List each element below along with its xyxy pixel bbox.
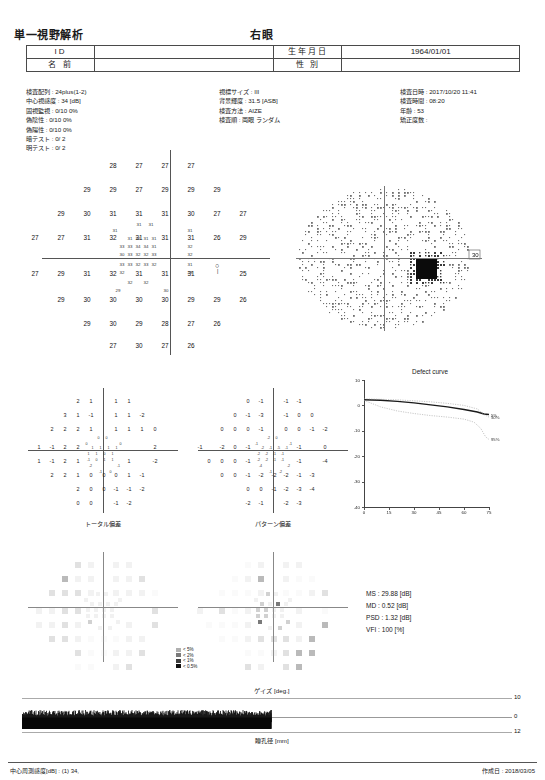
sensitivity-value: 30 [106,296,120,303]
deviation-value: -1 [255,398,267,404]
probability-cell [36,608,42,614]
probability-cell [113,636,119,642]
deviation-value: 0 [229,458,241,464]
probability-cell [113,590,119,596]
deviation-value-central: 1 [108,458,117,462]
ms-value: MS : 29.88 [dB] [366,588,411,600]
deviation-value: -1 [306,426,318,432]
probability-cell [232,590,238,596]
deviation-value: 1 [123,412,135,418]
probability-cell [258,650,264,656]
deviation-value-central: -1 [278,452,287,456]
total-deviation-probability-map [28,552,178,662]
chart-y-tick [362,431,364,432]
probability-cell [206,622,212,628]
probability-cell [258,562,264,568]
probability-cell [75,664,81,670]
name-value[interactable] [94,59,274,72]
sensitivity-value: 30 [80,210,94,217]
sensitivity-value: 29 [54,210,68,217]
pattern-deviation-label: パターン偏差 [198,519,348,528]
probability-cell [116,620,120,624]
sensitivity-value: 31 [184,234,198,241]
probability-cell [139,590,145,596]
chart-x-tick [464,508,465,510]
probability-cell [88,576,94,582]
probability-cell [280,614,284,618]
sensitivity-value-central: 32 [185,252,195,257]
chart-x-tick [439,508,440,510]
deviation-value: 0 [216,458,228,464]
footer-left-text: 中心周測感度[dB] : (1) 34, [10,766,79,775]
deviation-value: -1 [242,458,254,464]
deviation-value: 0 [293,412,305,418]
deviation-value: 0 [306,412,318,418]
deviation-value: 1 [85,426,97,432]
probability-cell [219,622,225,628]
sensitivity-value: 26 [210,320,224,327]
probability-cell [126,590,132,596]
sensitivity-value: 27 [184,320,198,327]
probability-cell [272,614,276,618]
deviation-value: 1 [33,444,45,450]
deviation-value: 2 [59,458,71,464]
sensitivity-value-central: 31 [134,222,144,227]
probability-cell [62,636,68,642]
probability-cell [49,636,55,642]
grayscale-scale-value: 30 [472,252,479,258]
statistics-block: MS : 29.88 [dB] MD : 0.52 [dB] PSD : 1.3… [366,588,411,636]
probability-cell [86,608,90,612]
probability-cell [75,576,81,582]
sensitivity-value: 28 [158,320,172,327]
sensitivity-value: 30 [106,320,120,327]
probability-cell [278,626,282,630]
deviation-value-central: 0 [102,436,111,440]
deviation-value: -1 [136,472,148,478]
probability-cell [110,608,114,612]
gaze-top-rule [22,698,512,699]
total-deviation-label: トータル偏差 [28,519,178,528]
deviation-value: 2 [59,444,71,450]
sex-value[interactable] [342,59,520,72]
deviation-value: 1 [123,426,135,432]
probability-cell [271,650,277,656]
deviation-value: 1 [72,412,84,418]
legend-swatch-icon [176,648,181,652]
probability-cell [126,622,132,628]
probability-cell [258,576,264,582]
deviation-value: 0 [85,500,97,506]
sensitivity-value-central: 31 [149,244,159,249]
sensitivity-value-central: 30 [161,288,171,293]
deviation-value: -1 [46,444,58,450]
legend-label: < 2% [183,653,194,658]
eye-label: 右眼 [250,26,273,42]
sensitivity-value: 27 [158,162,172,169]
legend-label: < 0.5% [183,664,197,669]
probability-cell [283,636,289,642]
chart-x-axis [364,507,490,508]
probability-cell [254,598,258,602]
probability-cell [62,590,68,596]
probability-cell [245,650,251,656]
probability-cell [86,614,90,618]
dob-value[interactable]: 1964/01/01 [342,46,520,59]
probability-cell [102,608,106,612]
param-line: 偽陰性 : 0/10 0% [26,115,86,124]
probability-cell [219,636,225,642]
defect-curve-plot [364,380,489,507]
probability-cell [113,650,119,656]
deviation-value: 1 [110,412,122,418]
deviation-value-central: -1 [96,470,105,474]
id-value[interactable] [94,46,274,59]
gaze-tracking-chart: ゲイズ [deg.] 10 0 12 瞳孔径 [mm] [22,686,522,756]
horizontal-axis [28,450,178,451]
probability-cell [126,576,132,582]
probability-cell [88,620,92,624]
probability-cell [197,608,203,614]
chart-y-tick-label: 10 [342,378,360,383]
probability-cell [268,602,272,606]
sensitivity-value: 31 [158,270,172,277]
gaze-bottom-label: 瞳孔径 [mm] [22,736,522,745]
deviation-value: 0 [255,486,267,492]
deviation-value: -1 [110,486,122,492]
